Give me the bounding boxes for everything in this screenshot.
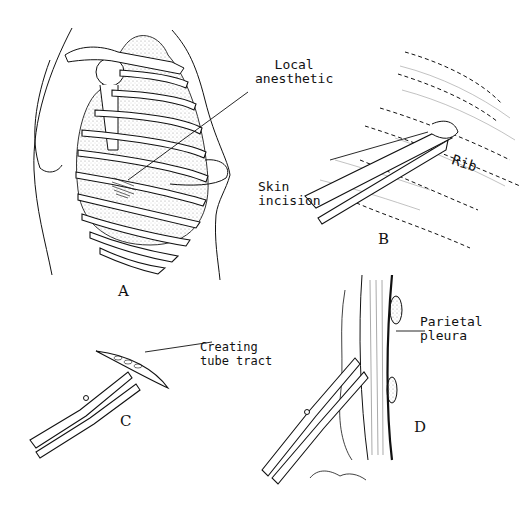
panel-d-pleura [262, 275, 425, 484]
chest-tube-insertion-illustration: Local anesthetic Skin incision Rib Creat… [0, 0, 529, 506]
panel-a-torso [34, 28, 248, 280]
label-local-anesthetic: Local anesthetic [255, 58, 333, 86]
panel-letter-a: A [118, 282, 129, 300]
panel-b-incision [305, 52, 520, 248]
panel-letter-c: C [120, 412, 131, 430]
label-creating-tube-tract: Creating tube tract [200, 340, 272, 368]
panel-letter-d: D [414, 418, 426, 436]
label-parietal-pleura: Parietal pleura [420, 315, 483, 343]
label-skin-incision: Skin incision [258, 180, 321, 208]
panel-c-tube-tract [30, 342, 212, 458]
panel-letter-b: B [378, 230, 389, 248]
